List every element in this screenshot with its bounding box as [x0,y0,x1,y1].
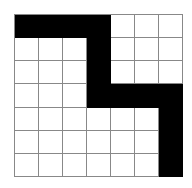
filled-cell [135,84,159,107]
empty-cell [135,38,159,61]
filled-cell [87,15,111,38]
empty-cell [159,61,183,84]
empty-cell [15,108,39,131]
empty-cell [111,61,135,84]
filled-cell [159,131,183,154]
empty-cell [111,131,135,154]
empty-cell [135,15,159,38]
empty-cell [111,38,135,61]
empty-cell [15,131,39,154]
empty-cell [39,108,63,131]
empty-cell [63,131,87,154]
empty-cell [15,38,39,61]
empty-cell [63,38,87,61]
empty-cell [15,84,39,107]
empty-cell [39,84,63,107]
filled-cell [159,154,183,177]
filled-cell [63,15,87,38]
filled-cell [15,15,39,38]
empty-cell [87,154,111,177]
empty-cell [39,38,63,61]
empty-cell [39,154,63,177]
empty-cell [111,154,135,177]
filled-cell [39,15,63,38]
empty-cell [159,15,183,38]
filled-cell [159,108,183,131]
grid-diagram [14,14,183,177]
empty-cell [111,108,135,131]
empty-cell [63,108,87,131]
empty-cell [135,131,159,154]
empty-cell [111,15,135,38]
empty-cell [39,61,63,84]
empty-cell [63,61,87,84]
filled-cell [87,38,111,61]
empty-cell [135,61,159,84]
empty-cell [87,131,111,154]
empty-cell [63,154,87,177]
empty-cell [63,84,87,107]
filled-cell [159,84,183,107]
empty-cell [159,38,183,61]
empty-cell [135,108,159,131]
filled-cell [111,84,135,107]
empty-cell [87,108,111,131]
empty-cell [135,154,159,177]
filled-cell [87,84,111,107]
empty-cell [15,61,39,84]
empty-cell [39,131,63,154]
filled-cell [87,61,111,84]
empty-cell [15,154,39,177]
